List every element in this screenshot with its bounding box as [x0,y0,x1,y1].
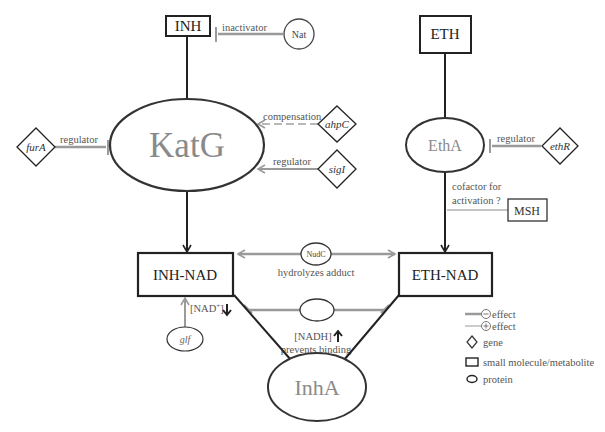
edge-label-glf: [NAD+] [190,302,224,314]
svg-text:INH: INH [175,18,202,34]
svg-text:gene: gene [483,337,503,348]
svg-text:effect: effect [492,321,516,332]
node-etha[interactable]: EthA [406,118,484,172]
node-sigi[interactable]: sigI [318,150,356,188]
diamond-icon [467,336,477,348]
arrow-down-icon [223,304,231,315]
svg-text:ethR: ethR [550,140,570,152]
svg-text:furA: furA [26,141,46,153]
legend-item-gene: gene [467,336,503,348]
svg-text:ETH-NAD: ETH-NAD [412,267,479,283]
edge-label-fura-katg: regulator [60,134,98,145]
node-eth[interactable]: ETH [420,16,471,53]
rectangle-icon [466,358,478,366]
svg-text:InhA: InhA [294,375,339,400]
svg-text:MSH: MSH [514,204,540,218]
svg-text:small molecule/metabolite: small molecule/metabolite [483,357,594,368]
node-inha[interactable]: InhA [268,353,366,421]
edge-label-nadh: [NADH] [294,331,331,342]
svg-text:ETH: ETH [430,26,459,42]
arrow-up-icon [334,331,342,342]
edge-ethnad-inha [344,295,399,360]
edge-label-sigi-katg: regulator [273,156,311,167]
node-fura[interactable]: furA [17,128,55,166]
node-eth-nad[interactable]: ETH-NAD [399,253,492,296]
svg-text:Nat: Nat [292,29,307,40]
svg-text:effect: effect [492,309,516,320]
edge-label-ahpc-katg: compensation [263,111,322,122]
edge-label-msh-line1: cofactor for [452,181,502,192]
svg-text:NudC: NudC [306,250,325,259]
node-katg[interactable]: KatG [110,99,264,191]
ellipse-icon [467,376,477,383]
edge-label-nudc: hydrolyzes adduct [278,267,355,278]
edge-inhnad-inha [234,295,291,360]
node-inh-nad[interactable]: INH-NAD [138,253,233,296]
edge-label-msh-line2: activation ? [452,195,501,206]
legend: effect effect gene small molecule/metabo… [465,309,594,385]
legend-item-protein: protein [467,374,513,385]
edge-label-ethr-etha: regulator [497,133,535,144]
node-ethr[interactable]: ethR [542,128,578,164]
svg-text:EthA: EthA [428,137,462,154]
node-ahpc[interactable]: ahpC [318,106,356,142]
pathway-diagram: inactivator regulator compensation regul… [0,0,605,432]
svg-text:sigI: sigI [329,163,347,175]
node-nudc[interactable]: NudC [301,243,331,265]
svg-text:protein: protein [483,374,513,385]
node-inh[interactable]: INH [166,16,210,36]
svg-text:KatG: KatG [149,126,225,165]
svg-text:glf: glf [180,334,192,345]
legend-item-positive-effect: effect [465,321,516,332]
legend-item-negative-effect: effect [465,309,516,320]
svg-text:ahpC: ahpC [325,118,350,130]
node-nat[interactable]: Nat [284,19,314,49]
node-msh[interactable]: MSH [508,199,547,221]
node-glf[interactable]: glf [167,327,203,351]
svg-text:INH-NAD: INH-NAD [153,267,217,283]
node-unnamed-protein[interactable] [300,299,334,321]
edge-label-nat-inh: inactivator [222,22,267,33]
legend-item-small-molecule: small molecule/metabolite [466,357,594,368]
